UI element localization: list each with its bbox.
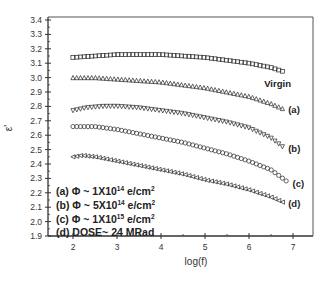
data-point-marker — [187, 83, 191, 87]
data-point-marker — [164, 81, 168, 85]
data-point-marker — [153, 79, 157, 83]
y-tick-label: 2.9 — [30, 87, 42, 97]
data-point-marker — [183, 83, 187, 87]
data-point-marker — [206, 86, 210, 90]
data-point-marker — [198, 85, 202, 89]
y-tick-label: 2.4 — [30, 159, 42, 169]
data-point-marker — [235, 92, 239, 96]
data-point-marker — [75, 76, 79, 80]
y-tick-label: 3.1 — [30, 58, 42, 68]
data-point-marker — [269, 168, 273, 172]
data-point-marker — [250, 95, 254, 99]
curve-label: (d) — [288, 198, 300, 209]
data-point-marker — [273, 171, 277, 175]
data-point-marker — [105, 104, 109, 108]
legend-item-d: (d) DOSE~ 24 MRad — [56, 226, 154, 238]
data-point-marker — [277, 173, 281, 177]
data-point-marker — [120, 77, 124, 81]
data-point-marker — [254, 97, 258, 101]
x-tick-label: 6 — [247, 242, 252, 252]
data-point-marker — [172, 82, 176, 86]
data-point-marker — [168, 81, 172, 85]
data-point-marker — [134, 78, 138, 82]
data-point-marker — [280, 145, 284, 149]
y-tick-label: 2.2 — [30, 188, 42, 198]
data-point-marker — [176, 82, 180, 86]
y-tick-label: 2.7 — [30, 116, 42, 126]
data-point-marker — [71, 155, 75, 159]
dielectric-constant-chart: 1.92.02.12.22.32.42.52.62.72.82.93.03.13… — [0, 0, 328, 285]
data-point-marker — [224, 90, 228, 94]
data-point-marker — [247, 94, 251, 98]
curve-label: (b) — [288, 143, 300, 154]
data-point-marker — [262, 99, 266, 103]
data-point-marker — [108, 104, 112, 108]
y-tick-label: 3.4 — [30, 15, 42, 25]
legend-item-c: (c) Φ ~ 1X1015 e/cm2 — [56, 213, 155, 225]
y-tick-label: 2.5 — [30, 145, 42, 155]
legend-item-b: (b) Φ ~ 5X1014 e/cm2 — [56, 199, 156, 211]
data-point-marker — [221, 89, 225, 93]
data-point-marker — [194, 84, 198, 88]
legend-item-a: (a) Φ ~ 1X1014 e/cm2 — [56, 185, 155, 197]
data-point-marker — [97, 76, 101, 80]
data-point-marker — [213, 88, 217, 92]
data-point-marker — [112, 77, 116, 81]
data-point-marker — [90, 105, 94, 109]
data-point-marker — [202, 85, 206, 89]
data-point-marker — [138, 78, 142, 82]
y-tick-label: 3.2 — [30, 44, 42, 54]
y-tick-label: 3.0 — [30, 73, 42, 83]
y-tick-label: 1.9 — [30, 231, 42, 241]
data-point-marker — [265, 100, 269, 104]
data-point-marker — [269, 136, 273, 140]
legend: (a) Φ ~ 1X1014 e/cm2 (b) Φ ~ 5X1014 e/cm… — [56, 185, 156, 238]
data-point-marker — [127, 78, 131, 82]
data-point-marker — [280, 176, 284, 180]
data-point-marker — [97, 105, 101, 109]
data-point-marker — [209, 87, 213, 91]
y-tick-label: 2.3 — [30, 173, 42, 183]
data-point-marker — [161, 80, 165, 84]
y-tick-label: 2.8 — [30, 101, 42, 111]
x-axis-title: log(f) — [185, 256, 208, 267]
x-tick-label: 5 — [203, 242, 208, 252]
data-point-marker — [78, 107, 82, 111]
data-point-marker — [149, 79, 153, 83]
data-point-marker — [228, 91, 232, 95]
data-point-marker — [239, 93, 243, 97]
data-point-marker — [93, 105, 97, 109]
data-point-marker — [78, 76, 82, 80]
data-point-marker — [217, 88, 221, 92]
data-point-marker — [101, 104, 105, 108]
y-tick-label: 2.1 — [30, 202, 42, 212]
data-point-marker — [86, 106, 90, 110]
y-tick-label: 3.3 — [30, 29, 42, 39]
data-point-marker — [146, 79, 150, 83]
data-point-marker — [284, 179, 288, 183]
x-tick-label: 4 — [159, 242, 164, 252]
data-point-marker — [123, 77, 127, 81]
data-point-marker — [131, 78, 135, 82]
x-tick-label: 3 — [115, 242, 120, 252]
data-point-marker — [232, 91, 236, 95]
data-point-marker — [93, 76, 97, 80]
curve-label: (c) — [293, 178, 305, 189]
curve-label: (a) — [288, 104, 300, 115]
data-point-marker — [71, 109, 75, 113]
data-point-marker — [243, 93, 247, 97]
x-tick-label: 7 — [291, 242, 296, 252]
data-point-marker — [142, 79, 146, 83]
data-point-marker — [82, 76, 86, 80]
data-point-marker — [273, 139, 277, 143]
curve-label: Virgin — [264, 78, 291, 89]
data-point-marker — [101, 76, 105, 80]
data-point-marker — [116, 77, 120, 81]
data-point-marker — [191, 84, 195, 88]
y-tick-label: 2.6 — [30, 130, 42, 140]
data-point-marker — [108, 77, 112, 81]
data-point-marker — [71, 76, 75, 80]
data-point-marker — [269, 102, 273, 106]
x-tick-label: 2 — [71, 242, 76, 252]
data-point-marker — [277, 142, 281, 146]
